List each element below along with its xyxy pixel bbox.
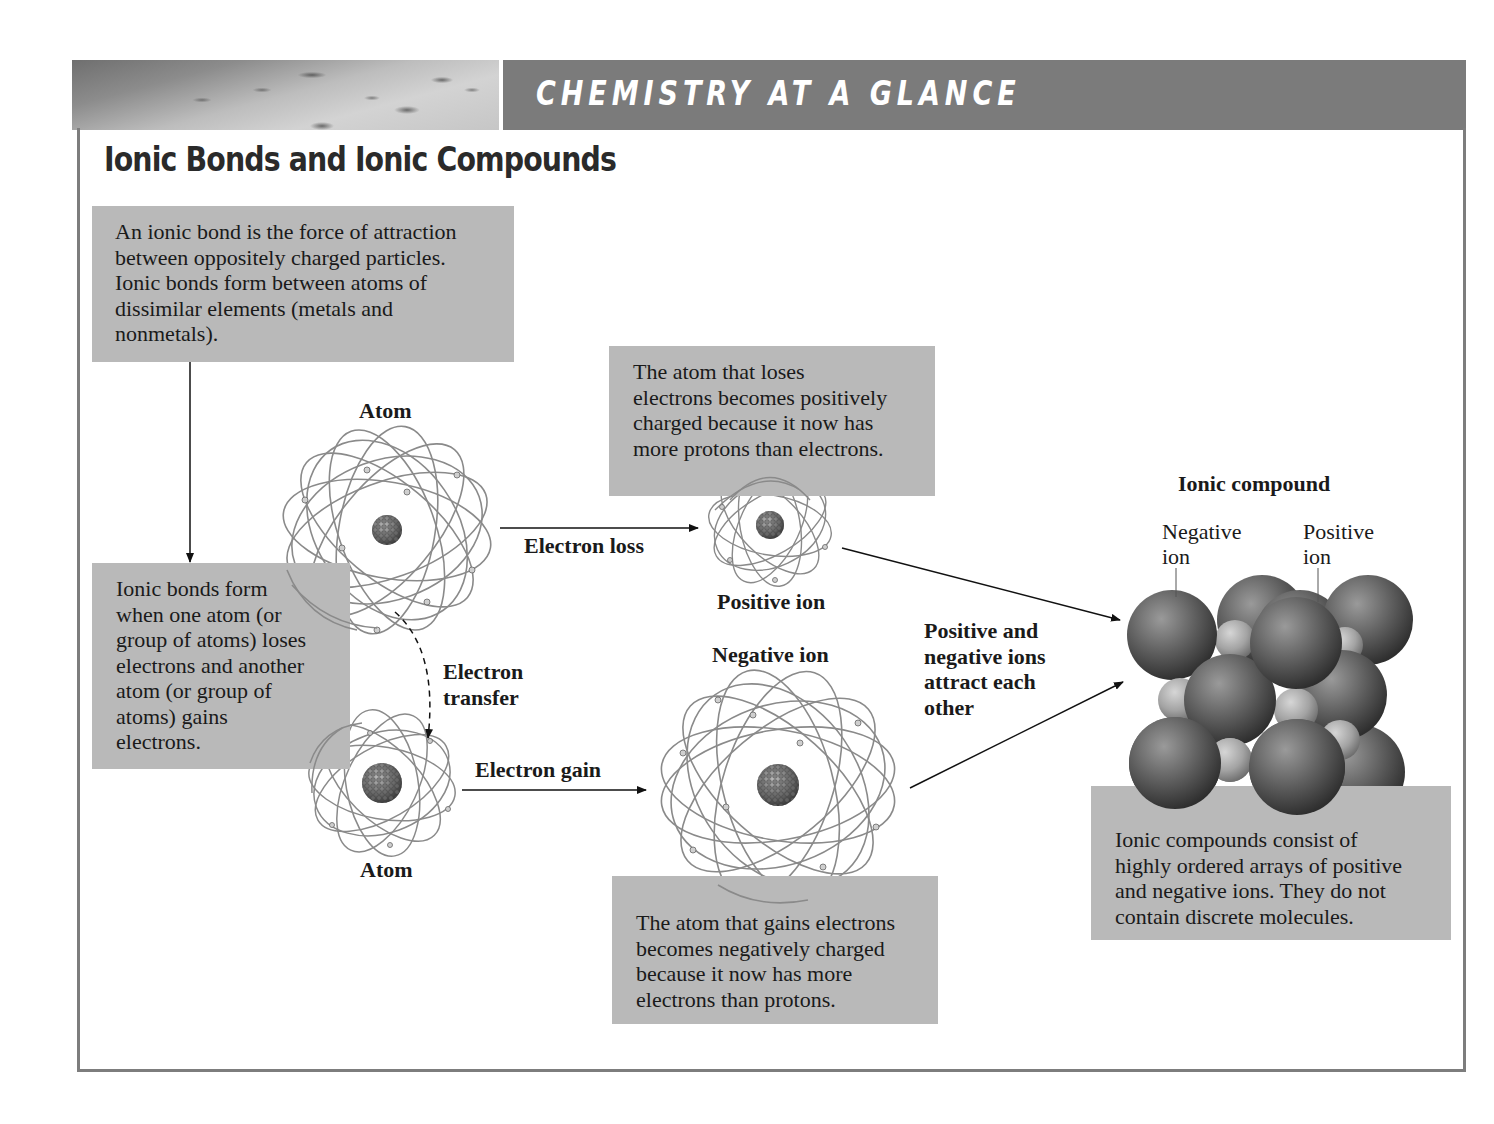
attraction-label: Positive and negative ions attract each … [924,618,1046,720]
atom-bottom-foreground [310,723,362,793]
electron-gain-label: Electron gain [475,757,601,783]
negative-ion-label: Negative ion [712,642,829,668]
lattice-foreground [1129,717,1345,815]
atom-bottom-label: Atom [360,857,413,883]
lattice-negative-ion-label: Negative ion [1162,519,1241,569]
positive-ion-label: Positive ion [717,589,825,615]
atom-top-foreground [287,570,377,630]
positive-ion-foreground [715,478,810,511]
atom-top-label: Atom [359,398,412,424]
negative-ion-foreground [718,885,808,903]
ionic-compound-label: Ionic compound [1178,471,1330,497]
lattice-positive-ion-label: Positive ion [1303,519,1374,569]
diagram-foreground [0,0,1494,1124]
electron-transfer-label: Electron transfer [443,659,523,710]
electron-loss-label: Electron loss [524,533,644,559]
